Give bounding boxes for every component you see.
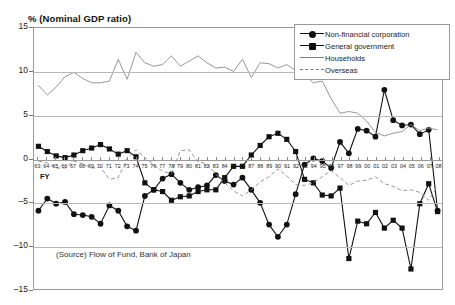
x-axis-tick-label: 85 (231, 162, 237, 171)
x-axis-tick (296, 157, 297, 160)
x-axis-tick (55, 157, 56, 160)
data-point-marker (373, 134, 379, 140)
x-axis-tick (162, 157, 163, 160)
legend-label: General government (325, 42, 394, 51)
x-axis-tick-label: 72 (115, 162, 121, 171)
data-point-marker (45, 149, 50, 154)
x-axis-tick-label: 97 (338, 162, 344, 171)
x-axis-tick-label: 84 (222, 162, 228, 171)
x-axis-tick (37, 157, 38, 160)
data-point-marker (142, 193, 148, 199)
legend-label: Overseas (325, 66, 358, 75)
x-axis-tick (269, 157, 270, 160)
data-point-marker (381, 87, 387, 93)
data-point-marker (435, 209, 440, 214)
data-point-marker (417, 131, 423, 137)
data-point-marker (275, 234, 281, 240)
data-point-marker (178, 194, 183, 199)
data-point-marker (329, 193, 334, 198)
data-point-marker (124, 223, 130, 229)
x-axis-tick-label: 03 (391, 162, 397, 171)
x-axis-tick-label: 65 (52, 162, 58, 171)
x-axis-tick (144, 157, 145, 160)
data-point-marker (142, 180, 147, 185)
data-point-marker (373, 210, 378, 215)
y-axis-tick (29, 202, 33, 203)
data-point-marker (115, 208, 121, 214)
x-axis-tick (127, 157, 128, 160)
x-axis-tick-label: 08 (436, 162, 442, 171)
data-point-marker (355, 219, 360, 224)
x-axis-tick (430, 157, 431, 160)
x-axis-tick (314, 157, 315, 160)
data-point-marker (98, 142, 103, 147)
data-point-marker (213, 187, 218, 192)
x-axis-tick (412, 157, 413, 160)
legend-label: Households (325, 54, 365, 63)
x-axis-tick (82, 157, 83, 160)
data-point-marker (346, 150, 352, 156)
x-axis-tick (367, 157, 368, 160)
x-axis-tick (207, 157, 208, 160)
data-point-marker (258, 143, 263, 148)
x-axis-tick (260, 157, 261, 160)
x-axis-tick-label: 02 (382, 162, 388, 171)
y-axis-tick-label: 15 (0, 21, 28, 31)
x-axis-tick-label: 98 (346, 162, 352, 171)
x-axis-tick-label: 67 (70, 162, 76, 171)
data-point-marker (231, 182, 237, 188)
x-axis-tick (136, 157, 137, 160)
x-axis-tick (332, 157, 333, 160)
data-point-marker (391, 218, 396, 223)
data-point-marker (364, 128, 370, 134)
data-point-marker (399, 226, 404, 231)
legend-item-households[interactable]: Households (299, 52, 445, 64)
x-axis-tick-label: 75 (141, 162, 147, 171)
legend-line-dashed-icon (299, 64, 325, 76)
x-axis-tick-label: 74 (133, 162, 139, 171)
x-axis-tick (91, 157, 92, 160)
data-point-marker (169, 198, 174, 203)
y-axis-tick (29, 115, 33, 116)
x-axis-tick-label: 89 (266, 162, 272, 171)
x-axis-tick-label: 69 (88, 162, 94, 171)
x-axis-tick-label: 68 (79, 162, 85, 171)
x-axis-tick-label: 90 (275, 162, 281, 171)
series-line-overseas (38, 150, 437, 200)
x-axis-tick (216, 157, 217, 160)
x-axis-tick-label: 00 (364, 162, 370, 171)
legend-marker-circle-icon (299, 28, 325, 40)
data-point-marker (275, 131, 280, 136)
x-axis-tick (73, 157, 74, 160)
x-axis-tick (153, 157, 154, 160)
data-point-marker (116, 152, 121, 157)
legend-line-thin-icon (299, 52, 325, 64)
x-axis-tick-label: 82 (204, 162, 210, 171)
data-point-marker (320, 192, 325, 197)
gridline (34, 116, 442, 117)
data-point-marker (284, 137, 289, 142)
x-axis-tick-label: 78 (168, 162, 174, 171)
data-point-marker (44, 196, 50, 202)
data-point-marker (293, 191, 299, 197)
data-point-marker (213, 172, 219, 178)
x-axis-tick (251, 157, 252, 160)
data-point-marker (204, 187, 209, 192)
x-axis-tick (394, 157, 395, 160)
x-axis-tick-label: 80 (186, 162, 192, 171)
x-axis-tick (189, 157, 190, 160)
x-axis-tick (234, 157, 235, 160)
y-axis-tick-label: 5 (0, 109, 28, 119)
x-axis-tick-label: 79 (177, 162, 183, 171)
x-axis-tick (180, 157, 181, 160)
x-axis-tick-label: 94 (311, 162, 317, 171)
source-note: (Source) Flow of Fund, Bank of Japan (56, 250, 191, 259)
x-axis-tick-label: 83 (213, 162, 219, 171)
x-axis-tick (118, 157, 119, 160)
data-point-marker (382, 226, 387, 231)
legend-item-general-government[interactable]: General government (299, 40, 445, 52)
legend-item-overseas[interactable]: Overseas (299, 64, 445, 76)
legend-item-non-financial-corporation[interactable]: Non-financial corporation (299, 28, 445, 40)
data-point-marker (36, 208, 42, 214)
data-point-marker (311, 180, 316, 185)
